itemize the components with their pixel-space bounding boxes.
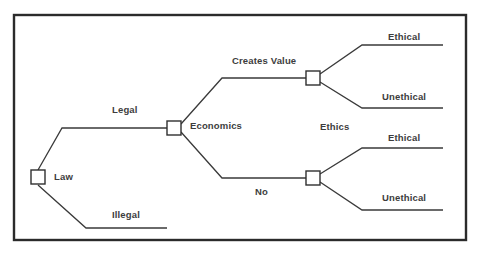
label-ethical-lower: Ethical	[388, 133, 420, 143]
label-unethical-lower: Unethical	[382, 193, 426, 203]
branch-economics-to-no	[181, 132, 306, 178]
label-legal: Legal	[112, 105, 138, 115]
label-law: Law	[54, 172, 73, 182]
branch-law-to-illegal	[38, 185, 167, 228]
label-ethical-upper: Ethical	[388, 32, 420, 42]
label-ethics: Ethics	[320, 122, 349, 132]
label-illegal: Illegal	[112, 210, 140, 220]
label-unethical-upper: Unethical	[382, 92, 426, 102]
branch-economics-to-creates-value	[181, 78, 306, 124]
decision-node-law[interactable]	[31, 170, 45, 184]
decision-node-ethics-upper[interactable]	[306, 71, 320, 85]
decision-node-ethics-lower[interactable]	[306, 171, 320, 185]
label-economics: Economics	[190, 121, 242, 131]
label-creates-value: Creates Value	[232, 56, 296, 66]
branch-law-to-legal	[38, 128, 167, 170]
branch-ethics-lower-to-ethical	[320, 148, 443, 174]
decision-node-economics[interactable]	[167, 121, 181, 135]
decision-tree-diagram: Law Legal Illegal Economics Creates Valu…	[0, 0, 483, 256]
label-no: No	[255, 187, 268, 197]
branch-ethics-upper-to-ethical	[320, 45, 443, 74]
